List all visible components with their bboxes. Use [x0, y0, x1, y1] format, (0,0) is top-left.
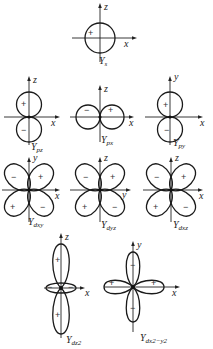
- orbital-label: Ys: [99, 55, 108, 68]
- axis-label-z: z: [64, 231, 69, 242]
- orbital-label: Ydxy: [28, 216, 44, 229]
- sign-label: +: [110, 172, 115, 182]
- orbital-dyz: z y − + + − Ydyz: [70, 152, 131, 232]
- sign-label: −: [40, 202, 45, 212]
- arrow-icon: [168, 76, 172, 81]
- node-dot: [59, 286, 63, 290]
- node-dot: [27, 188, 31, 192]
- sign-label: +: [153, 202, 158, 212]
- sign-label: −: [130, 303, 135, 313]
- lobe-positive: [71, 183, 108, 221]
- orbital-label: Ydz2: [66, 334, 82, 347]
- sign-label: +: [151, 278, 156, 288]
- lobe-negative: [163, 183, 200, 221]
- sign-label: −: [130, 260, 135, 270]
- orbital-px: z x − + Ypx: [70, 83, 134, 147]
- lobe-negative: [71, 159, 108, 197]
- node-dot: [169, 188, 173, 192]
- orbital-pz: z x + − Ypz: [4, 74, 60, 154]
- sign-label: −: [112, 202, 117, 212]
- sign-label: +: [181, 172, 186, 182]
- sign-label: −: [183, 202, 188, 212]
- arrow-icon: [126, 188, 131, 192]
- orbital-dx2-y2: y x − + + − Ydx2−y2: [104, 239, 180, 345]
- axis-label-z: z: [103, 152, 108, 163]
- axis-label-z: z: [103, 83, 108, 94]
- sign-label: +: [109, 278, 114, 288]
- arrow-icon: [132, 36, 137, 40]
- arrow-icon: [98, 85, 102, 90]
- sign-label: −: [47, 282, 52, 292]
- node-dot: [27, 115, 30, 118]
- axis-label-x: x: [50, 117, 56, 128]
- sign-label: +: [38, 172, 43, 182]
- axis-label-z: z: [32, 74, 37, 85]
- sign-label: −: [84, 105, 89, 115]
- axis-label-y: y: [136, 239, 142, 250]
- sign-label: −: [154, 172, 159, 182]
- arrow-icon: [169, 157, 173, 162]
- arrow-icon: [131, 241, 135, 246]
- orbital-label: Ydxz: [173, 219, 188, 232]
- node-dot: [98, 115, 101, 118]
- orbital-label: Ydx2−y2: [140, 332, 168, 345]
- axis-label-z: z: [174, 152, 179, 163]
- sign-label: −: [164, 125, 169, 135]
- axis-label-x: x: [199, 117, 205, 128]
- arrow-icon: [98, 157, 102, 162]
- sign-label: +: [21, 99, 26, 109]
- orbital-dz2: z x + − − + Ydz2: [44, 231, 90, 347]
- sign-label: +: [55, 255, 60, 265]
- sign-label: −: [83, 172, 88, 182]
- orbital-label: Ypx: [101, 134, 114, 147]
- sign-label: −: [11, 172, 16, 182]
- orbital-dxz: z x − + + − Ydxz: [142, 152, 204, 232]
- orbital-py: y x + − Ypy: [145, 71, 205, 150]
- axis-label-x: x: [198, 190, 204, 201]
- arrow-icon: [27, 76, 31, 81]
- sign-label: +: [82, 202, 87, 212]
- arrow-icon: [59, 233, 63, 238]
- axis-label-x: x: [84, 287, 90, 298]
- axis-label-z: z: [103, 1, 108, 12]
- sign-label: −: [21, 125, 26, 135]
- orbital-label: Ydyz: [101, 219, 116, 232]
- axis-label-y: y: [173, 71, 179, 82]
- sign-label: +: [10, 202, 15, 212]
- arrow-icon: [98, 3, 102, 8]
- arrow-icon: [27, 157, 31, 162]
- sign-label: +: [88, 28, 93, 38]
- sign-label: +: [163, 100, 168, 110]
- axis-label-x: x: [123, 38, 129, 49]
- lobe-negative: [0, 159, 37, 197]
- arrow-icon: [55, 115, 60, 119]
- orbital-s: z x + Ys: [72, 1, 137, 68]
- node-dot: [168, 115, 171, 118]
- axis-label-x: x: [54, 190, 60, 201]
- axis-label-y: y: [121, 189, 127, 200]
- lobe-negative: [142, 159, 179, 197]
- sign-label: +: [108, 105, 113, 115]
- node-dot: [131, 285, 135, 289]
- axis-label-y: y: [32, 152, 38, 163]
- node-dot: [98, 188, 102, 192]
- axis-label-x: x: [128, 117, 134, 128]
- axis-label-x: x: [171, 287, 177, 298]
- orbital-label: Ypy: [173, 137, 186, 150]
- lobe-positive: [142, 183, 179, 221]
- sign-label: −: [68, 282, 73, 292]
- sign-label: +: [55, 310, 60, 320]
- orbital-dxy: y x − + + − Ydxy: [0, 152, 60, 229]
